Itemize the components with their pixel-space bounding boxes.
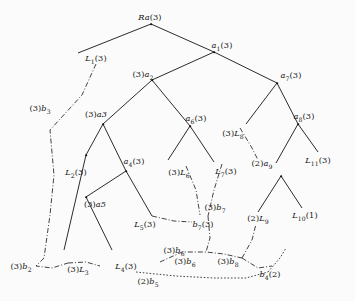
tree-edge (276, 124, 298, 163)
node-label-L4: L4(3) (115, 262, 136, 270)
tree-diagram-figure: Ra(3)a1(3)L1(3)(3)a2a7(3)(3)b3(3)a3a6(3)… (0, 0, 355, 301)
node-label-L1: L1(3) (85, 54, 106, 62)
node-label-b6: (3)b6 (163, 246, 184, 254)
aux-edge (242, 258, 272, 268)
aux-edge (36, 258, 68, 268)
node-label-b8: (3)b8 (217, 257, 238, 265)
node-label-a4: a4(3) (124, 157, 145, 165)
node-label-a5: (3)a5 (84, 200, 106, 208)
node-label-a6: a6(3) (186, 114, 207, 122)
node-label-a7: a7(3) (281, 71, 302, 79)
tree-edge (168, 126, 190, 160)
tree-edge (298, 124, 318, 152)
tree-edge (281, 176, 302, 208)
tree-node-point (189, 125, 191, 127)
tree-edge (152, 52, 214, 80)
node-label-L8: (3)L8 (222, 129, 243, 137)
node-label-a9: (2)a9 (252, 159, 273, 167)
node-label-b2: (3)b2 (10, 262, 31, 270)
aux-edge (242, 224, 256, 258)
node-label-L2: L2(3) (65, 168, 86, 176)
node-label-b4: b4(2) (259, 270, 280, 278)
tree-node-point (213, 51, 215, 53)
tree-edge (126, 171, 152, 216)
node-label-L3: (3)L3 (67, 265, 88, 273)
tree-edge (190, 126, 214, 162)
tree-edge (258, 176, 281, 212)
node-label-L7: L7(3) (215, 167, 236, 175)
node-label-L5: L5(3) (134, 220, 155, 228)
node-label-b6b: (3)b6 (174, 257, 195, 265)
tree-edge (86, 124, 103, 155)
tree-node-point (102, 123, 104, 125)
tree-edge (103, 124, 126, 171)
tree-edge (151, 24, 214, 52)
tree-node-point (276, 82, 278, 84)
tree-edge (103, 80, 152, 124)
tree-node-point (150, 23, 152, 25)
tree-edge (86, 171, 126, 197)
node-label-b5: (2)b5 (137, 277, 158, 285)
node-label-a8: a8(3) (294, 112, 315, 120)
node-label-root: Ra(3) (138, 13, 161, 21)
node-label-b7b: (3)b7 (204, 203, 225, 211)
node-label-a2: (3)a2 (133, 70, 154, 78)
node-label-L6: (3)L6 (168, 168, 189, 176)
node-label-L9: (2)L9 (247, 214, 268, 222)
node-label-L10: L10(1) (292, 211, 317, 219)
tree-node-point (297, 123, 299, 125)
node-label-a1: a1(3) (212, 41, 233, 49)
aux-edge (152, 216, 192, 222)
tree-edge (78, 24, 151, 53)
tree-edge (214, 52, 277, 83)
tree-node-point (85, 196, 87, 198)
tree-node-point (151, 79, 153, 81)
tree-node-point (85, 154, 87, 156)
aux-edge (44, 64, 96, 258)
node-label-b7: b7(3) (192, 220, 213, 228)
tree-node-point (125, 170, 127, 172)
node-label-a3: (3)a3 (85, 110, 107, 118)
node-label-L11: L11(3) (305, 156, 330, 164)
tree-node-point (280, 175, 282, 177)
tree-edge (152, 80, 190, 126)
tree-edge (246, 83, 277, 124)
node-label-b3: (3)b3 (29, 104, 50, 112)
